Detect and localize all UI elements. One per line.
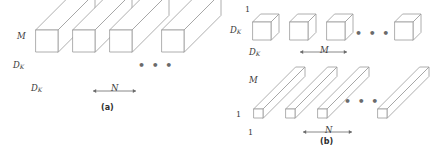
panel-b-pointwise-filter-1-front-face <box>286 109 295 118</box>
panel-b-bottom-count-arrow-head-1 <box>349 130 352 134</box>
panel-b-top-ellipsis: • • • <box>355 28 391 39</box>
panel-b-pointwise-filter-3-top-face <box>378 67 429 109</box>
panel-a-count-arrow-head-1 <box>133 89 136 93</box>
panel-b-bottom-count-label: N <box>325 126 332 135</box>
panel-a-width-subscript: K <box>38 86 42 93</box>
figure-canvas <box>0 0 446 149</box>
panel-a-count-label: N <box>111 84 118 93</box>
panel-a-count-arrow-head-0 <box>93 89 96 93</box>
panel-b-top-count-arrow-head-1 <box>344 50 347 54</box>
panel-b-top-height-label: DK <box>230 26 241 35</box>
panel-a-height-label: DK <box>13 61 24 70</box>
panel-b-pointwise-filter-3-front-face <box>378 109 387 118</box>
panel-a-filter-1-front-face <box>73 30 95 52</box>
panel-a-width-label: DK <box>31 84 42 93</box>
panel-b-bottom-ellipsis: • • • <box>344 96 380 107</box>
panel-b-depthwise-filter-0-front-face <box>253 22 271 40</box>
panel-b-top-width-label: DK <box>249 48 260 57</box>
panel-a-caption: (a) <box>101 104 114 112</box>
panel-b-bottom-depth-label: M <box>249 76 258 85</box>
panel-b-pointwise-filter-3-side-face <box>387 67 429 118</box>
panel-b-pointwise-filter-2-front-face <box>318 109 327 118</box>
figure-depthwise-separable-filters: M DK DK • • • N (a) 1 DK DK • • • M M 1 … <box>0 0 446 149</box>
panel-a-filter-0-front-face <box>36 30 58 52</box>
panel-b-depthwise-filter-2-front-face <box>327 22 345 40</box>
panel-a-filter-3-front-face <box>162 30 184 52</box>
panel-a-depth-label: M <box>17 32 26 41</box>
panel-b-depthwise-filter-3-front-face <box>395 22 413 40</box>
panel-b-bottom-width-label: 1 <box>248 129 253 137</box>
panel-b-top-count-label: M <box>320 46 329 55</box>
panel-b-depthwise-filter-1-front-face <box>290 22 308 40</box>
panel-a-ellipsis: • • • <box>138 60 174 71</box>
panel-b-top-width-subscript: K <box>256 50 260 57</box>
panel-a-height-subscript: K <box>20 63 24 70</box>
panel-a-filter-2-front-face <box>110 30 132 52</box>
panel-b-top-depth-label: 1 <box>245 6 250 14</box>
panel-b-bottom-count-arrow-head-0 <box>303 130 306 134</box>
panel-b-pointwise-filter-0-front-face <box>254 109 263 118</box>
panel-b-top-count-arrow-head-0 <box>300 50 303 54</box>
panel-b-bottom-height-label: 1 <box>236 111 241 119</box>
panel-b-caption: (b) <box>320 138 333 146</box>
panel-b-top-height-subscript: K <box>237 28 241 35</box>
